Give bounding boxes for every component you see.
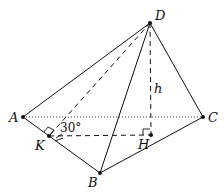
edge-DC	[150, 23, 203, 117]
point-A	[21, 115, 25, 119]
pyramid-diagram: D A C B K H h 30°	[0, 0, 224, 195]
label-K: K	[34, 138, 46, 153]
label-C: C	[208, 110, 218, 125]
label-D: D	[154, 8, 166, 23]
point-C	[201, 115, 205, 119]
label-angle: 30°	[60, 121, 81, 135]
point-D	[148, 21, 152, 25]
label-A: A	[8, 110, 18, 125]
segment-KH	[49, 135, 151, 136]
label-height: h	[154, 81, 162, 96]
label-B: B	[87, 175, 98, 190]
segment-DH-height	[150, 23, 151, 135]
angle-arc-K	[55, 134, 63, 141]
point-B	[98, 171, 102, 175]
point-K	[47, 134, 51, 138]
right-angle-H	[143, 129, 150, 135]
point-H	[149, 133, 153, 137]
segment-DK	[49, 23, 150, 136]
edge-DA	[23, 23, 150, 117]
label-H: H	[137, 137, 150, 152]
